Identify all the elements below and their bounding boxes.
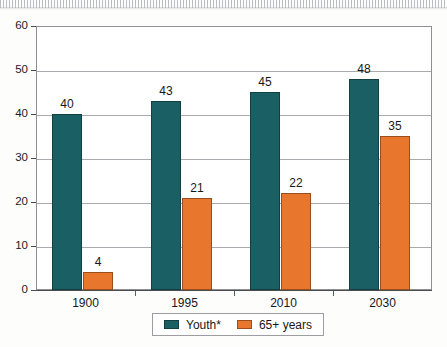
bar-65-years-2030 [380, 136, 410, 290]
bar-65-years-2010 [281, 193, 311, 290]
scan-artifact-shadow [0, 7, 447, 10]
bar-value-label: 45 [242, 76, 288, 88]
x-tick-mark [333, 291, 334, 296]
y-axis-tick-label: 20 [2, 196, 28, 208]
bar-youth--1995 [151, 101, 181, 290]
y-tick-mark [31, 158, 36, 159]
x-axis-category-label: 1995 [135, 297, 234, 309]
y-axis-tick-label: 30 [2, 152, 28, 164]
x-axis-category-label: 2010 [234, 297, 333, 309]
bar-65-years-1900 [83, 272, 113, 290]
legend-entry-seniors[interactable]: 65+ years [237, 319, 312, 331]
y-tick-mark [31, 114, 36, 115]
bar-value-label: 4 [75, 256, 121, 268]
y-axis-tick-label: 60 [2, 20, 28, 32]
y-tick-mark [31, 26, 36, 27]
x-tick-mark [234, 291, 235, 296]
legend-label: 65+ years [259, 319, 312, 331]
bar-value-label: 43 [143, 85, 189, 97]
y-axis-tick-label: 10 [2, 240, 28, 252]
bar-value-label: 48 [341, 63, 387, 75]
bar-chart: 0102030405060 404432145224835 1900199520… [0, 0, 447, 347]
legend-entry-youth[interactable]: Youth* [164, 319, 221, 331]
legend-swatch-teal-icon [164, 320, 179, 329]
y-axis-tick-label: 40 [2, 108, 28, 120]
legend-swatch-orange-icon [237, 320, 252, 329]
y-tick-mark [31, 246, 36, 247]
bar-value-label: 21 [174, 182, 220, 194]
x-axis-category-label: 1900 [36, 297, 135, 309]
bar-youth--2010 [250, 92, 280, 290]
y-tick-mark [31, 290, 36, 291]
y-axis-tick-label: 0 [2, 284, 28, 296]
y-tick-mark [31, 70, 36, 71]
bar-youth--2030 [349, 79, 379, 290]
x-tick-mark [135, 291, 136, 296]
chart-legend: Youth*65+ years [152, 313, 324, 336]
legend-label: Youth* [186, 319, 221, 331]
bar-value-label: 22 [273, 177, 319, 189]
y-tick-mark [31, 202, 36, 203]
bar-value-label: 35 [372, 120, 418, 132]
bar-65-years-1995 [182, 198, 212, 290]
y-axis-tick-label: 50 [2, 64, 28, 76]
bar-value-label: 40 [44, 98, 90, 110]
x-axis-category-label: 2030 [333, 297, 432, 309]
